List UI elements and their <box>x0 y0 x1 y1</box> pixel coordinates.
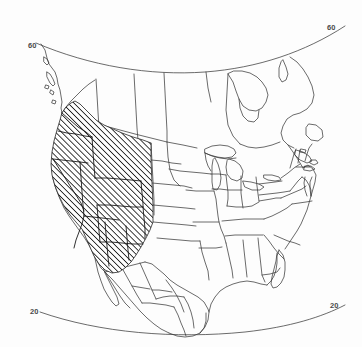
ia-mo-line <box>186 190 214 191</box>
tn-ms-al-ga-line <box>225 235 263 236</box>
wi-mi-line <box>205 153 211 171</box>
labrador-coast <box>281 57 314 148</box>
mx-interior-i <box>132 286 150 289</box>
nj-coast <box>302 177 311 196</box>
oh-pa-line <box>256 177 259 201</box>
north-america-map <box>0 0 362 347</box>
haida-gwaii <box>44 57 49 65</box>
mx-interior-a <box>122 268 142 303</box>
mx-yucatan <box>200 313 206 333</box>
ar-la-line <box>199 247 222 248</box>
newfoundland <box>306 124 323 141</box>
parallel-20 <box>40 305 345 335</box>
nc-sc-line <box>274 235 300 245</box>
ks-ok-line <box>153 222 196 226</box>
parallel-60 <box>36 26 345 73</box>
florida-gulf <box>267 250 279 285</box>
ok-tx-line <box>157 238 200 241</box>
gulf-of-california <box>105 272 130 308</box>
ky-tn-line <box>222 219 264 221</box>
map-figure: 60 60 20 20 <box>0 0 362 347</box>
lake-huron <box>226 159 243 181</box>
parallel-label-20-right: 20 <box>330 301 338 310</box>
gulf-coast <box>200 281 267 333</box>
island-small-b <box>45 85 49 89</box>
sc-ga-line <box>264 235 284 259</box>
hudson-bay <box>228 71 268 111</box>
mx-interior-b <box>140 263 156 299</box>
gulf-st-lawrence <box>288 145 303 168</box>
nd-sd-line <box>151 160 181 164</box>
wi-il-line <box>211 174 226 175</box>
pa-md-line <box>259 191 290 195</box>
michigan-upper-peninsula <box>205 153 236 159</box>
il-in-line <box>226 175 228 206</box>
nh-me-line <box>305 144 312 161</box>
bc-coast <box>41 44 62 113</box>
oh-wv-line <box>259 198 281 201</box>
nova-scotia <box>295 150 312 163</box>
ontario-quebec-border <box>226 74 240 144</box>
parallel-label-20-left: 20 <box>30 307 38 316</box>
manitoba-ontario-border <box>164 73 167 142</box>
ny-nj-pa-line <box>290 177 302 191</box>
florida-peninsula <box>271 250 285 288</box>
la-ms-line <box>226 243 233 278</box>
mx-interior-f <box>184 297 194 328</box>
parallel-label-60-left: 60 <box>28 41 36 50</box>
sd-ne-line <box>152 183 192 188</box>
mn-ia-line <box>169 169 211 174</box>
lake-ontario <box>264 175 281 181</box>
hatched-western-states <box>40 90 165 285</box>
al-ga-line <box>258 238 265 282</box>
lake-erie <box>243 181 264 190</box>
island-small-c <box>52 100 56 104</box>
atlantic-coast <box>285 165 316 249</box>
mx-interior-g <box>174 307 186 336</box>
ms-al-line <box>243 240 247 277</box>
ga-fl-line <box>262 268 280 275</box>
sask-manitoba-border <box>134 74 138 140</box>
mx-interior-d <box>142 303 174 307</box>
lake-superior <box>205 145 236 158</box>
parallel-label-60-right: 60 <box>327 23 335 32</box>
vancouver-island <box>47 72 55 86</box>
mo-il-line <box>214 191 226 243</box>
cape-cod <box>310 160 318 165</box>
quebec-north <box>240 142 280 148</box>
mx-us-border-tx <box>145 262 209 312</box>
island-small-a <box>50 90 54 95</box>
mexico-state-boundaries <box>105 262 209 336</box>
hudson-bay-south <box>239 99 259 122</box>
mx-interior-h <box>152 290 172 292</box>
tn-nc-line <box>264 204 292 219</box>
canada-interior-line <box>206 72 211 102</box>
ne-ks-line <box>153 205 195 209</box>
pa-ny-line <box>259 181 282 184</box>
ungava-bay <box>279 60 288 82</box>
tx-east-line <box>200 241 209 280</box>
mexico-west-coast <box>105 272 169 333</box>
pei <box>300 149 306 153</box>
mx-interior-c <box>156 296 184 299</box>
